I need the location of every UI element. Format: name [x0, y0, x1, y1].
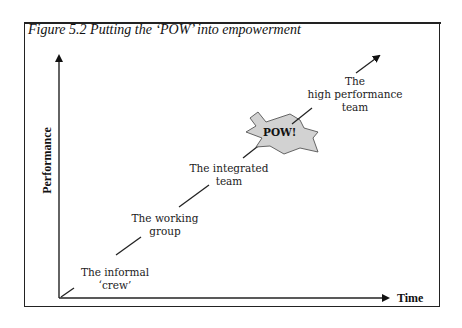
- y-axis-label: Performance: [40, 124, 55, 198]
- stage-label-line: team: [181, 175, 277, 188]
- pow-label: POW!: [263, 126, 296, 138]
- stage-label-working-group: The working group: [118, 212, 212, 238]
- stage-label-integrated-team: The integrated team: [181, 162, 277, 188]
- x-axis-label: Time: [397, 291, 423, 306]
- stage-label-line: team: [300, 101, 410, 114]
- stage-label-informal-crew: The informal ‘crew’: [68, 266, 162, 292]
- segment-crew-working: [116, 237, 141, 255]
- segment-working-integrated: [179, 185, 209, 207]
- stage-label-line: The informal: [68, 266, 162, 279]
- stage-label-line: group: [118, 225, 212, 238]
- segment-high-arrow: [356, 56, 379, 73]
- stage-label-high-performance-team: The high performance team: [300, 75, 410, 114]
- stage-label-line: high performance: [300, 88, 410, 101]
- stage-label-line: ‘crew’: [68, 279, 162, 292]
- stage-label-line: The working: [118, 212, 212, 225]
- stage-label-line: The integrated: [181, 162, 277, 175]
- stage-label-line: The: [300, 75, 410, 88]
